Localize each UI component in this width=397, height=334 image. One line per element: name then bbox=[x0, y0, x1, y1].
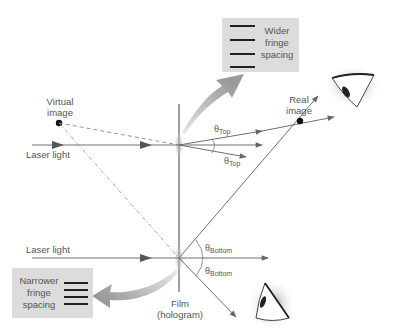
narrower-label-line2: fringe bbox=[15, 287, 63, 299]
fringe-line bbox=[230, 25, 255, 27]
real-image-label-line2: image bbox=[281, 105, 317, 116]
theta-subscript: Top bbox=[229, 160, 240, 167]
eye-icon-top bbox=[327, 66, 379, 107]
real-image-label-line1: Real bbox=[281, 94, 317, 105]
theta-top-upper-label: θTop bbox=[214, 124, 230, 135]
fringe-line bbox=[64, 289, 88, 291]
wider-fringe-spacing-box: Wider fringe spacing bbox=[222, 18, 299, 72]
narrower-label-line1: Narrower bbox=[15, 275, 63, 287]
fringe-line bbox=[64, 303, 88, 305]
eye-icon-bottom bbox=[250, 281, 294, 329]
wider-label-line1: Wider bbox=[257, 25, 297, 37]
wider-label: Wider fringe spacing bbox=[257, 25, 297, 61]
virtual-ray-bottom bbox=[59, 123, 179, 258]
fringe-line bbox=[230, 39, 255, 41]
theta-top-lower-label: θTop bbox=[224, 156, 240, 167]
virtual-ray-top bbox=[59, 123, 179, 145]
real-image-label: Real image bbox=[281, 94, 317, 116]
virtual-image-label: Virtual image bbox=[43, 96, 77, 118]
curved-arrow-to-wider bbox=[182, 74, 244, 134]
narrower-fringe-spacing-box: Narrower fringe spacing bbox=[12, 268, 93, 318]
narrower-label-line3: spacing bbox=[15, 299, 63, 311]
laser-light-bottom-label: Laser light bbox=[26, 244, 70, 255]
fringe-line bbox=[230, 66, 255, 68]
wider-label-line3: spacing bbox=[257, 49, 297, 61]
fringe-line bbox=[230, 53, 255, 55]
theta-bottom-lower-label: θBottom bbox=[205, 266, 232, 277]
wider-label-line2: fringe bbox=[257, 37, 297, 49]
fringe-line bbox=[64, 296, 88, 298]
film-label-line1: Film bbox=[155, 298, 205, 309]
film-label-line2: (hologram) bbox=[155, 309, 205, 320]
narrower-label: Narrower fringe spacing bbox=[15, 275, 63, 311]
real-image-point bbox=[297, 118, 303, 124]
theta-bottom-upper-label: θBottom bbox=[205, 243, 232, 254]
theta-subscript: Top bbox=[219, 128, 230, 135]
fringe-line bbox=[64, 282, 88, 284]
theta-subscript: Bottom bbox=[210, 270, 232, 277]
laser-light-top-label: Laser light bbox=[26, 149, 70, 160]
virtual-image-label-line1: Virtual bbox=[43, 96, 77, 107]
theta-subscript: Bottom bbox=[210, 247, 232, 254]
film-label: Film (hologram) bbox=[155, 298, 205, 320]
virtual-image-label-line2: image bbox=[43, 107, 77, 118]
